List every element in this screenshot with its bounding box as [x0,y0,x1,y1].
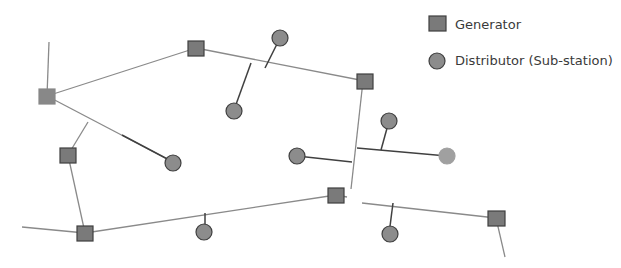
generator-node[interactable] [357,74,373,89]
generator-node[interactable] [60,148,76,163]
generator-node[interactable] [328,188,344,203]
distributor-node[interactable] [382,226,398,242]
transmission-lines [22,42,505,257]
generator-node[interactable] [77,226,93,241]
distributor-node[interactable] [196,224,212,240]
line-g1-g2 [47,48,196,96]
line-g2-g3 [196,48,365,81]
generator-node[interactable] [188,41,204,56]
line-g4-g5 [68,155,85,233]
branch-d3 [122,135,173,162]
branch-lines [122,38,447,234]
distributor-node[interactable] [289,148,305,164]
legend: Generator Distributor (Sub-station) [429,16,613,69]
line-left-g5 [22,227,85,233]
distributor-node-highlight[interactable] [439,148,455,164]
distributor-node[interactable] [226,103,242,119]
line-mid-g7 [362,203,496,218]
branch-d5-bus [357,148,447,156]
distributor-node[interactable] [165,155,181,171]
legend-distributor-label: Distributor (Sub-station) [455,53,613,68]
legend-generator-icon [429,16,446,31]
distributor-node[interactable] [272,30,288,46]
generator-node[interactable] [488,211,505,226]
line-g1-top [47,42,49,96]
generator-node[interactable] [39,89,55,104]
power-grid-diagram: Generator Distributor (Sub-station) [0,0,621,268]
distributor-node[interactable] [381,113,397,129]
legend-generator-label: Generator [455,17,522,32]
line-g3-down [351,81,363,189]
distributors [165,30,455,242]
legend-distributor-icon [429,53,445,69]
